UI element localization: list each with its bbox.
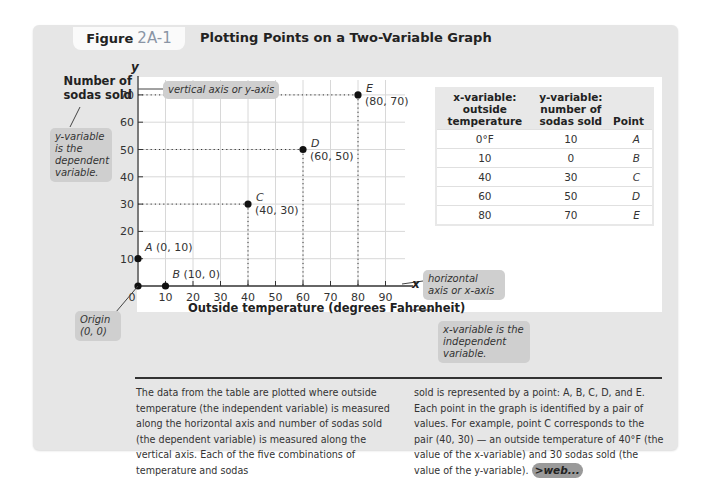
- cell-point: A: [609, 130, 652, 149]
- table-row: 6050D: [437, 187, 652, 206]
- horizontal-axis-callout-text: horizontal axis or x-axis: [428, 273, 494, 296]
- table-header-row: x-variable: outside temperature y-variab…: [437, 89, 652, 130]
- table-row: 100B: [437, 149, 652, 168]
- data-point-c: [244, 201, 251, 208]
- cell-temperature: 10: [437, 149, 533, 168]
- y-axis-title: Number of sodas sold: [40, 74, 132, 102]
- y-variable-leader: [70, 107, 80, 127]
- point-name-d: D: [311, 137, 319, 150]
- point-label-a: A (0, 10): [144, 241, 193, 254]
- cell-sodas: 10: [533, 130, 609, 149]
- caption-column-2: sold is represented by a point: A, B, C,…: [414, 385, 664, 478]
- data-table: x-variable: outside temperature y-variab…: [437, 89, 652, 224]
- x-variable-callout: x-variable is the independent variable.: [438, 321, 530, 363]
- caption-column-1: The data from the table are plotted wher…: [136, 385, 401, 478]
- y-tick-label: 50: [120, 144, 134, 157]
- y-variable-callout: y-variable is the dependent variable.: [50, 128, 112, 182]
- header-point: Point: [609, 89, 652, 130]
- y-axis-letter: y: [131, 60, 139, 74]
- point-label-b: B (10, 0): [173, 268, 221, 281]
- cell-sodas: 30: [533, 168, 609, 187]
- cell-temperature: 40: [437, 168, 533, 187]
- y-tick-label: 60: [120, 116, 134, 129]
- cell-temperature: 0°F: [437, 130, 533, 149]
- cell-point: C: [609, 168, 652, 187]
- cell-point: B: [609, 149, 652, 168]
- x-tick-label: 10: [159, 291, 173, 304]
- header-y-variable: y-variable: number of sodas sold: [533, 89, 609, 130]
- point-coords-d: (60, 50): [310, 150, 354, 163]
- cell-point: D: [609, 187, 652, 206]
- cell-temperature: 80: [437, 206, 533, 225]
- data-point-b: [162, 282, 169, 289]
- table-row: 8070E: [437, 206, 652, 225]
- data-point-a: [134, 255, 141, 262]
- x-axis-letter: x: [412, 277, 420, 291]
- x-axis-title: Outside temperature (degrees Fahrenheit): [188, 301, 465, 315]
- web-link-badge[interactable]: >web...: [532, 463, 583, 479]
- header-x-variable: x-variable: outside temperature: [437, 89, 533, 130]
- point-coords-c: (40, 30): [255, 204, 299, 217]
- y-tick-label: 20: [120, 225, 134, 238]
- caption-divider: [135, 377, 662, 379]
- cell-sodas: 50: [533, 187, 609, 206]
- cell-sodas: 0: [533, 149, 609, 168]
- cell-temperature: 60: [437, 187, 533, 206]
- point-coords-e: (80, 70): [365, 95, 409, 108]
- y-tick-label: 30: [120, 198, 134, 211]
- point-name-c: C: [256, 191, 264, 204]
- cell-sodas: 70: [533, 206, 609, 225]
- data-point-d: [299, 146, 306, 153]
- grid: [138, 80, 405, 286]
- horizontal-axis-callout: horizontal axis or x-axis: [423, 270, 505, 300]
- y-tick-label: 40: [120, 171, 134, 184]
- vertical-axis-callout: vertical axis or y-axis: [163, 81, 279, 99]
- table-row: 4030C: [437, 168, 652, 187]
- origin-callout: Origin (0, 0): [75, 311, 121, 341]
- cell-point: E: [609, 206, 652, 225]
- y-tick-label: 10: [120, 253, 134, 266]
- origin-callout-text: Origin (0, 0): [80, 314, 110, 337]
- data-point-e: [354, 91, 361, 98]
- table-row: 0°F10A: [437, 130, 652, 149]
- point-name-e: E: [366, 82, 373, 95]
